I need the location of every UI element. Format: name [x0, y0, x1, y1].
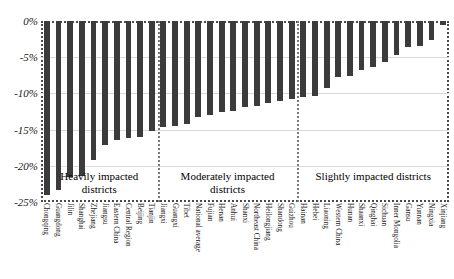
x-axis-label: National average	[194, 203, 201, 252]
x-axis-label: Hebei	[310, 203, 317, 220]
x-axis-label: Qinghai	[369, 203, 376, 226]
bar	[230, 21, 236, 111]
x-axis-label: Ningxia	[427, 203, 434, 226]
y-axis-tick-4: -20%	[0, 161, 38, 172]
x-axis-label: Tianjin	[147, 203, 154, 224]
bar	[300, 21, 306, 97]
x-axis-label: Tibet	[182, 203, 189, 218]
bar	[277, 21, 283, 101]
x-axis-label: Jiangsu	[101, 203, 108, 225]
bar	[405, 21, 411, 47]
bar	[172, 21, 178, 126]
x-axis-label: Shanghai	[77, 203, 84, 230]
annotation-moderately-impacted: Moderately impacteddistricts	[158, 170, 298, 195]
bar	[137, 21, 143, 137]
bar	[429, 21, 435, 40]
bar	[382, 21, 388, 62]
x-axis-label: Central Region	[124, 203, 131, 247]
annotation-line-1: Slightly impacted districts	[297, 170, 449, 183]
bar	[160, 21, 166, 127]
x-axis-label: Anhui	[229, 203, 236, 221]
bar	[312, 21, 318, 96]
y-axis-tick-2: -10%	[0, 88, 38, 99]
bar	[324, 21, 330, 88]
x-axis-label: Gansu	[404, 203, 411, 221]
bar	[394, 21, 400, 55]
bar	[184, 21, 190, 124]
bar	[347, 21, 353, 76]
bar	[370, 21, 376, 67]
x-axis-label: Henan	[217, 203, 224, 222]
x-axis-label: Beijing	[135, 203, 142, 224]
bar	[242, 21, 248, 107]
x-axis-label: Fujian	[205, 203, 212, 221]
x-axis-label: Northeast China	[252, 203, 259, 250]
x-axis-label: Guangdong	[54, 203, 61, 237]
x-axis-label: Shandong	[275, 203, 282, 232]
x-axis-label: Guizhou	[287, 203, 294, 228]
bar	[254, 21, 260, 106]
bar	[219, 21, 225, 112]
annotation-line-1: Heavily impacted	[41, 170, 158, 183]
y-axis-labels: 0%-5%-10%-15%-20%-25%	[0, 0, 38, 279]
bar	[79, 21, 85, 176]
x-axis-label: Jiangxi	[159, 203, 166, 224]
x-axis-label: Heilongjiang	[264, 203, 271, 241]
bar	[335, 21, 341, 77]
bar	[102, 21, 108, 145]
y-axis-tick-0: 0%	[0, 16, 38, 27]
x-axis-label: Liaoning	[322, 203, 329, 229]
bar-chart: 0%-5%-10%-15%-20%-25% Heavily impacteddi…	[0, 0, 454, 279]
y-axis-tick-1: -5%	[0, 52, 38, 63]
x-axis-label: Jilin	[66, 203, 73, 215]
x-axis-label: Western China	[334, 203, 341, 245]
x-axis-label: Chongqing	[42, 203, 49, 235]
x-axis-label: Hunan	[345, 203, 352, 222]
bar	[56, 21, 62, 190]
bar	[195, 21, 201, 117]
bar	[44, 21, 50, 195]
annotation-heavily-impacted: Heavily impacteddistricts	[41, 170, 158, 195]
x-axis-label: Sichuan	[380, 203, 387, 226]
x-axis-label: Inner Mongolia	[392, 203, 399, 248]
y-axis-tick-3: -15%	[0, 125, 38, 136]
x-axis-label: Yunnan	[415, 203, 422, 225]
bar	[359, 21, 365, 70]
y-axis-tick-5: -25%	[0, 197, 38, 208]
annotation-line-2: districts	[158, 183, 298, 196]
bar	[149, 21, 155, 131]
x-axis-label: Zhejiang	[89, 203, 96, 229]
annotation-line-2: districts	[41, 183, 158, 196]
x-axis-label: Shaanxi	[357, 203, 364, 226]
x-axis-label: Eastern China	[112, 203, 119, 244]
bar	[126, 21, 132, 138]
bar	[114, 21, 120, 140]
bar	[265, 21, 271, 103]
x-axis-label: Shanxi	[240, 203, 247, 223]
annotation-slightly-impacted: Slightly impacted districts	[297, 170, 449, 183]
bar	[207, 21, 213, 115]
annotation-line-1: Moderately impacted	[158, 170, 298, 183]
bar	[67, 21, 73, 177]
bar	[289, 21, 295, 99]
x-axis-label: Guangxi	[170, 203, 177, 228]
bar	[417, 21, 423, 46]
x-axis-label: Xinjiang	[439, 203, 446, 228]
x-axis-category-labels: ChongqingGuangdongJilinShanghaiZhejiangJ…	[41, 203, 449, 279]
bar	[440, 21, 446, 25]
x-axis-label: Hainan	[299, 203, 306, 224]
bar	[91, 21, 97, 160]
